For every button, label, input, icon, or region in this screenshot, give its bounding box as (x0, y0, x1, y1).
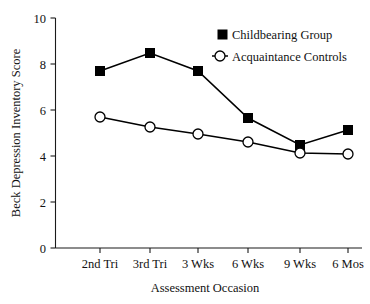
x-tick-label-5: 6 Mos (332, 257, 364, 271)
legend-marker-square-icon (218, 30, 227, 39)
series-line-acquaintance (100, 117, 348, 154)
data-point-marker (193, 129, 203, 139)
y-tick-label-10: 10 (34, 12, 47, 26)
chart-legend: Childbearing Group Acquaintance Controls (212, 28, 347, 64)
x-tick-label-2: 3 Wks (182, 257, 214, 271)
data-point-marker (95, 112, 105, 122)
legend-label-childbearing: Childbearing Group (232, 28, 332, 42)
y-tick-label-8: 8 (40, 58, 46, 72)
line-chart-canvas: 10 8 6 4 2 0 2nd Tri 3rd Tri 3 Wks 6 Wks… (0, 0, 370, 304)
data-point-marker (295, 148, 305, 158)
y-tick-label-0: 0 (40, 242, 46, 256)
series-acquaintance-controls (95, 112, 353, 159)
series-line-childbearing (100, 53, 348, 145)
x-axis-ticks (100, 248, 348, 253)
data-point-marker (96, 67, 105, 76)
data-point-marker (194, 67, 203, 76)
y-tick-label-6: 6 (40, 104, 46, 118)
x-tick-label-4: 9 Wks (284, 257, 316, 271)
y-axis-ticks (51, 18, 56, 248)
x-axis-title: Assessment Occasion (151, 281, 260, 295)
data-point-marker (146, 49, 155, 58)
data-point-marker (145, 122, 155, 132)
legend-label-acquaintance: Acquaintance Controls (232, 50, 347, 64)
y-tick-label-2: 2 (40, 196, 46, 210)
x-tick-label-0: 2nd Tri (82, 257, 119, 271)
data-point-marker (244, 114, 253, 123)
y-tick-label-4: 4 (40, 150, 47, 164)
chart-figure: 10 8 6 4 2 0 2nd Tri 3rd Tri 3 Wks 6 Wks… (0, 0, 370, 304)
legend-marker-circle-icon (215, 51, 225, 61)
y-axis-title: Beck Depression Inventory Score (9, 48, 23, 217)
data-point-marker (243, 137, 253, 147)
x-tick-label-1: 3rd Tri (133, 257, 168, 271)
data-point-marker (343, 149, 353, 159)
x-tick-label-3: 6 Wks (232, 257, 264, 271)
data-point-marker (344, 126, 353, 135)
